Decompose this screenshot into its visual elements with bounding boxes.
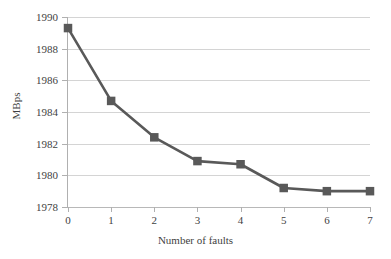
data-point-marker: [279, 184, 288, 193]
data-point-marker: [323, 187, 332, 196]
line-chart: 1990 1988 1986 1984 1982 1980 1978 0 1 2…: [0, 0, 391, 259]
y-axis-title: MBps: [10, 76, 22, 136]
data-point-marker: [64, 24, 73, 33]
x-axis-title: Number of faults: [0, 234, 391, 246]
series-line: [68, 28, 370, 191]
data-point-marker: [107, 97, 116, 106]
data-point-marker: [236, 160, 245, 169]
data-point-marker: [150, 133, 159, 142]
series-markers: [64, 24, 375, 196]
data-point-marker: [366, 187, 375, 196]
data-series-layer: [0, 0, 391, 259]
data-point-marker: [193, 157, 202, 166]
